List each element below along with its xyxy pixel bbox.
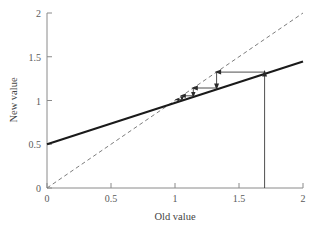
x-tick-label-2: 2 [301,193,306,204]
x-tick-label-1: 1 [173,193,178,204]
x-tick-label-0: 0 [45,193,50,204]
y-tick-label-1: 1 [36,96,41,107]
x-tick-label-1-5: 1.5 [233,193,246,204]
y-tick-label-2: 2 [36,8,41,19]
y-tick-label-1-5: 1.5 [29,52,42,63]
y-axis-title: New value [8,77,19,123]
chart-canvas: 2 1.5 1 0.5 0 0 0.5 1 1.5 2 Old value Ne… [0,0,322,231]
x-tick-label-0-5: 0.5 [105,193,118,204]
y-tick-label-0: 0 [36,183,41,194]
y-tick-label-0-5: 0.5 [29,139,42,150]
cobweb-chart-figure: 2 1.5 1 0.5 0 0 0.5 1 1.5 2 Old value Ne… [0,0,322,231]
x-axis-title: Old value [154,211,195,222]
